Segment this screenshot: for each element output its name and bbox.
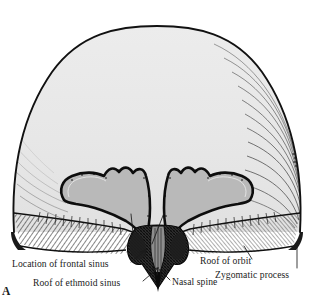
label-roof-of-orbit: Roof of orbit — [200, 256, 251, 266]
label-zygomatic-process: Zygomatic process — [215, 270, 289, 280]
anatomical-figure: Location of frontal sinus Roof of ethmoi… — [0, 0, 315, 303]
label-nasal-spine: Nasal spine — [172, 277, 217, 287]
cranial-vault — [13, 26, 303, 232]
label-location-of-frontal-sinus: Location of frontal sinus — [12, 259, 109, 269]
figure-letter: A — [2, 286, 10, 298]
label-roof-of-ethmoid-sinus: Roof of ethmoid sinus — [33, 278, 120, 288]
